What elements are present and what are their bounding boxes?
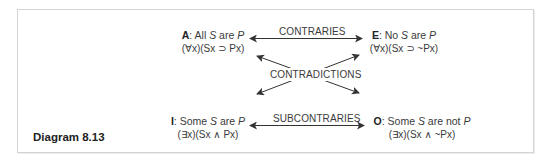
prop-i-copula: are — [217, 115, 238, 127]
prop-i-formula: (∃x)(Sx ∧ Px) — [168, 128, 248, 141]
contradictions-label: CONTRADICTIONS — [270, 69, 361, 80]
proposition-e: E: No S are P (∀x)(Sx ⊃ ~Px) — [364, 29, 444, 55]
prop-e-formula: (∀x)(Sx ⊃ ~Px) — [364, 42, 444, 55]
prop-e-text: : No — [379, 29, 401, 41]
prop-a-predicate: P — [237, 29, 244, 41]
diagram-caption: Diagram 8.13 — [33, 131, 105, 143]
prop-e-predicate: P — [429, 29, 436, 41]
proposition-a: A: All S are P (∀x)(Sx ⊃ Px) — [178, 29, 248, 55]
prop-e-copula: are — [408, 29, 429, 41]
prop-i-text: : Some — [174, 115, 210, 127]
subcontraries-label: SUBCONTRARIES — [273, 113, 360, 124]
prop-o-formula: (∃x)(Sx ∧ ~Px) — [372, 128, 472, 141]
prop-a-copula: are — [216, 29, 237, 41]
prop-i-subject: S — [210, 115, 217, 127]
prop-o-predicate: P — [463, 115, 470, 127]
prop-i-predicate: P — [238, 115, 245, 127]
prop-o-text: : Some — [382, 115, 418, 127]
contraries-label: CONTRARIES — [279, 26, 346, 37]
prop-a-formula: (∀x)(Sx ⊃ Px) — [178, 42, 248, 55]
prop-o-letter: O — [374, 115, 382, 127]
prop-o-copula: are not — [425, 115, 464, 127]
prop-e-letter: E — [372, 29, 379, 41]
proposition-o: O: Some S are not P (∃x)(Sx ∧ ~Px) — [372, 115, 472, 141]
proposition-i: I: Some S are P (∃x)(Sx ∧ Px) — [168, 115, 248, 141]
prop-o-subject: S — [418, 115, 425, 127]
prop-a-text: : All — [189, 29, 209, 41]
